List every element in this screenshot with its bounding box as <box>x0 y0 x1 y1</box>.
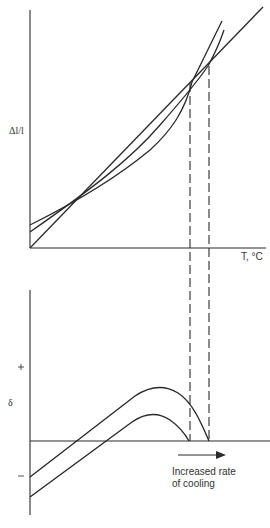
delta-curve-lower <box>30 415 189 497</box>
increased-rate-label: Increased rate <box>172 466 236 477</box>
top-curve-upper <box>30 21 222 225</box>
bottom-panel <box>18 290 270 515</box>
of-cooling-label: of cooling <box>172 478 215 489</box>
top-curve-lower <box>30 30 224 232</box>
diagram-canvas <box>0 0 270 528</box>
top-straight-line <box>30 7 263 248</box>
top-panel <box>30 7 266 441</box>
bottom-y-axis-label: δ <box>8 397 13 408</box>
top-x-axis-label: T, °C <box>241 251 263 262</box>
cooling-arrow-head <box>216 451 226 459</box>
top-y-axis-label: Δl/l <box>9 125 24 136</box>
delta-curve-upper <box>30 388 209 477</box>
